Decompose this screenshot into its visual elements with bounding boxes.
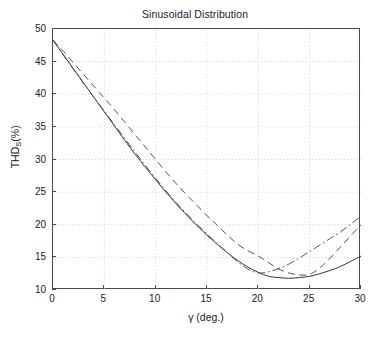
x-tick-mark (206, 285, 207, 289)
y-tick-mark (52, 126, 56, 127)
x-tick-mark (52, 285, 53, 289)
y-tick-label: 35 (2, 120, 46, 131)
x-tick-mark (360, 285, 361, 289)
x-tick-label: 30 (354, 293, 365, 304)
y-tick-mark (52, 61, 56, 62)
y-tick-mark (52, 224, 56, 225)
x-axis-label: γ (deg.) (52, 311, 360, 323)
x-tick-label: 25 (303, 293, 314, 304)
y-tick-label: 15 (2, 251, 46, 262)
x-tick-mark (309, 285, 310, 289)
x-tick-label: 10 (149, 293, 160, 304)
y-tick-mark (52, 159, 56, 160)
y-tick-label: 10 (2, 284, 46, 295)
y-tick-label: 30 (2, 153, 46, 164)
plot-area (52, 28, 360, 289)
gridlines (53, 29, 361, 290)
y-tick-label: 20 (2, 218, 46, 229)
x-tick-label: 20 (252, 293, 263, 304)
y-tick-mark (52, 28, 56, 29)
series-line-dash-dot-curve (53, 40, 361, 273)
x-tick-mark (103, 285, 104, 289)
x-tick-label: 15 (200, 293, 211, 304)
x-tick-mark (257, 285, 258, 289)
y-tick-label-group: 101520253035404550 (0, 28, 46, 289)
y-tick-label: 50 (2, 23, 46, 34)
y-tick-label: 25 (2, 186, 46, 197)
x-tick-mark (155, 285, 156, 289)
y-tick-mark (52, 191, 56, 192)
y-tick-mark (52, 93, 56, 94)
x-tick-label: 5 (101, 293, 107, 304)
chart-title: Sinusoidal Distribution (0, 8, 390, 20)
plot-canvas (53, 29, 361, 290)
y-tick-mark (52, 289, 56, 290)
chart-figure: Sinusoidal Distribution THDS(%) 10152025… (0, 0, 390, 337)
y-tick-mark (52, 256, 56, 257)
y-tick-label: 40 (2, 88, 46, 99)
x-tick-label: 0 (49, 293, 55, 304)
x-tick-label-group: 051015202530 (52, 293, 360, 309)
y-tick-label: 45 (2, 55, 46, 66)
